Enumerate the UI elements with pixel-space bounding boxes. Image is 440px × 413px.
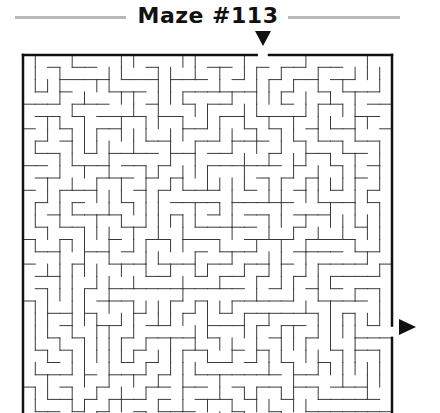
exit-arrow-icon	[399, 319, 416, 335]
maze-grid[interactable]	[0, 0, 440, 413]
entry-arrow-icon	[255, 31, 271, 46]
